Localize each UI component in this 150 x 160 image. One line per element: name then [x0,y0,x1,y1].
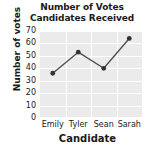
chart-title-line-1: Number of Votes [18,2,146,13]
x-axis-title: Candidate [30,133,145,144]
data-point-marker [101,66,106,71]
x-tick-label: Sarah [112,120,146,129]
chart-title: Number of Votes Candidates Received [18,2,146,24]
y-tick-label: 40 [16,64,36,72]
data-point-marker [50,71,55,76]
data-point-marker [76,50,81,55]
y-tick-label: 10 [16,102,36,110]
x-axis-tick-labels: EmilyTylerSeanSarah [40,120,142,132]
y-tick-label: 70 [16,27,36,35]
y-tick-label: 20 [16,89,36,97]
y-tick-label: 30 [16,77,36,85]
data-series-votes [40,31,142,118]
plot-area [40,31,142,118]
y-tick-label: 60 [16,39,36,47]
data-point-marker [127,36,132,41]
series-line [53,38,130,73]
line-chart-figure: Number of Votes Candidates Received Numb… [0,0,150,160]
y-tick-label: 0 [16,114,36,122]
chart-title-line-2: Candidates Received [18,13,146,24]
y-axis-tick-labels: 010203040506070 [16,31,36,118]
y-tick-label: 50 [16,52,36,60]
